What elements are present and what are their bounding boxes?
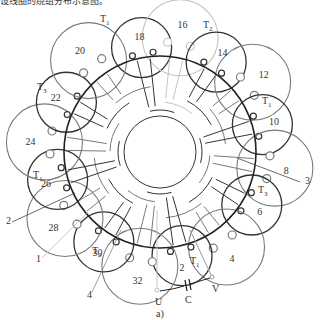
coil-lobe-18 [112,18,172,78]
slot-label-8: 8 [284,165,289,176]
coil-lobes [6,0,312,304]
connection-spoke [213,163,252,171]
connection-spoke [214,156,254,159]
connection-arc [110,123,119,151]
motor-winding-diagram: 1816141210864232302826242220 T1T2T1T3T1T… [0,0,320,320]
connection-spoke [137,204,147,243]
coil-terminal [219,70,225,76]
stator-outer-ring [64,56,256,248]
slot-label-18: 18 [135,31,145,42]
connection-spoke [205,134,252,143]
terminal-U-node [155,288,159,292]
connection-spoke [105,202,124,228]
slot-label-20: 20 [75,45,85,56]
callout-4: 4 [87,289,92,300]
connection-spoke [173,61,183,100]
coil-lobe-32 [102,228,178,304]
slot-label-4: 4 [230,253,235,264]
connection-spoke [196,76,215,102]
coil-terminal [266,152,274,160]
coil-terminal [58,165,64,171]
connection-spoke [66,150,106,151]
callout-2: 2 [6,215,11,226]
slot-label-10: 10 [269,116,279,127]
connection-arc [150,110,175,113]
connection-spoke [150,206,154,246]
coil-terminal [148,258,156,266]
connection-spoke [166,198,173,246]
callout-1: 1 [36,253,41,264]
coil-terminal [80,69,88,77]
coil-terminal [150,49,156,55]
connection-spoke [204,206,219,225]
connection-arc [128,190,155,201]
coil-terminal [73,220,81,228]
slot-label-12: 12 [259,69,269,80]
connection-arc [118,141,120,166]
slot-label-32: 32 [132,275,142,286]
connection-spoke [67,137,107,143]
connection-spoke [173,196,186,242]
connection-spoke [80,102,107,119]
coil-terminal [129,53,135,59]
label-V: V [212,283,220,294]
slot-label-24: 24 [25,136,35,147]
slot-label-6: 6 [257,206,262,217]
terminal-label-t1: T1 [262,95,272,109]
slot-label-14: 14 [218,47,228,58]
coil-lobe-16 [142,0,218,76]
figure-caption: a) [156,308,164,320]
coil-terminal [167,248,173,254]
slot-label-22: 22 [51,92,61,103]
coil-terminal [236,73,244,81]
coil-terminal [98,55,106,63]
connection-arc [200,138,202,163]
terminal-V-node [210,275,214,279]
coil-terminal [164,38,172,46]
lead-V [190,230,212,277]
connection-arc [147,192,172,194]
terminal-label-t3: T3 [258,184,268,198]
terminal-label-t1: T1 [33,169,43,183]
coil-terminal [64,112,70,118]
coil-lobe-8 [237,130,313,206]
label-C: C [185,294,192,305]
connection-arc [166,203,202,217]
callout-1-leader [42,212,88,258]
coil-terminal [64,185,70,191]
connection-arc [210,109,226,144]
slot-label-2: 2 [180,262,185,273]
connection-spoke [189,69,204,97]
connection-spoke [87,196,106,211]
connection-spoke [137,61,149,108]
connection-arc [165,102,192,113]
coil-terminal [188,244,194,250]
coil-lobe-22 [36,72,96,132]
connection-spoke [216,179,245,193]
label-U: U [155,296,163,307]
inner-ring [124,116,196,188]
coil-lobe-6 [222,175,282,235]
terminal-label-t2: T2 [203,19,213,33]
coil-terminal [250,113,256,119]
coil-terminal [228,231,236,239]
slot-label-16: 16 [178,19,188,30]
slot-label-28: 28 [49,222,59,233]
terminal-label-t1: T1 [190,255,200,269]
coil-terminal [248,190,254,196]
connection-spoke [211,187,238,205]
coil-terminal [46,150,54,158]
winding-connections [66,59,254,246]
coil-terminal [201,59,207,65]
callout-3: 3 [305,175,310,186]
connection-spoke [116,207,131,235]
